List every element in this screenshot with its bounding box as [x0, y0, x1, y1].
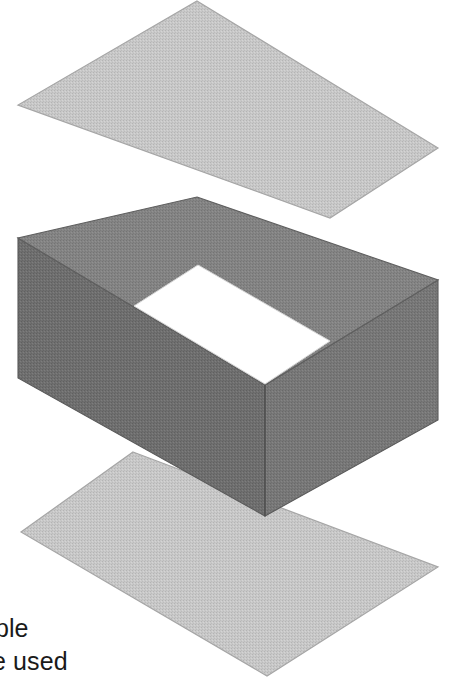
- box-body-group: [0, 150, 449, 516]
- caption-line-1: mple: [0, 612, 200, 645]
- caption-line-2: he used: [0, 645, 200, 678]
- caption-text-fragment: mple he used: [0, 612, 200, 678]
- figure-page: mple he used: [0, 0, 449, 685]
- isometric-exploded-box-figure: [0, 0, 449, 685]
